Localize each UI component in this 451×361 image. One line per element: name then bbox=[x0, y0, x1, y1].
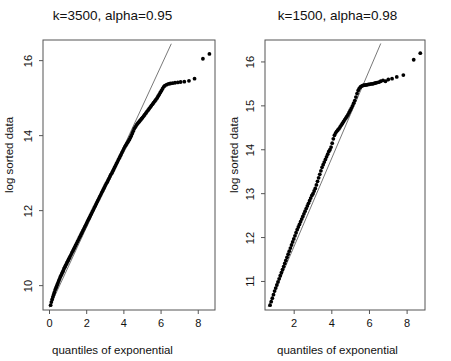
data-points bbox=[49, 52, 212, 307]
panel-right: k=1500, alpha=0.98 log sorted data quant… bbox=[225, 0, 450, 361]
figure-container: k=3500, alpha=0.95 log sorted data quant… bbox=[0, 0, 451, 361]
y-tick-label: 12 bbox=[19, 203, 37, 219]
x-tick-label: 4 bbox=[322, 317, 342, 329]
x-tick-label: 0 bbox=[40, 317, 60, 329]
data-points bbox=[268, 51, 422, 307]
y-tick-label: 12 bbox=[241, 230, 259, 246]
panel-left: k=3500, alpha=0.95 log sorted data quant… bbox=[0, 0, 225, 361]
y-tick-label: 10 bbox=[19, 278, 37, 294]
plot-frame bbox=[265, 40, 425, 310]
y-tick-label: 11 bbox=[241, 273, 259, 289]
panel-right-ylabel: log sorted data bbox=[226, 0, 242, 310]
x-tick-label: 4 bbox=[114, 317, 134, 329]
y-tick-label: 15 bbox=[241, 98, 259, 114]
x-tick-label: 2 bbox=[77, 317, 97, 329]
panel-right-xlabel: quantiles of exponential bbox=[225, 344, 450, 356]
y-tick-label: 14 bbox=[241, 142, 259, 158]
x-tick-label: 6 bbox=[151, 317, 171, 329]
x-tick-label: 2 bbox=[284, 317, 304, 329]
x-tick-label: 8 bbox=[397, 317, 417, 329]
panel-left-xlabel: quantiles of exponential bbox=[0, 344, 225, 356]
y-tick-label: 14 bbox=[19, 128, 37, 144]
y-tick-label: 16 bbox=[19, 53, 37, 69]
x-tick-label: 8 bbox=[188, 317, 208, 329]
y-tick-label: 16 bbox=[241, 54, 259, 70]
x-tick-label: 6 bbox=[359, 317, 379, 329]
panel-left-ylabel: log sorted data bbox=[1, 0, 17, 310]
y-tick-label: 13 bbox=[241, 186, 259, 202]
